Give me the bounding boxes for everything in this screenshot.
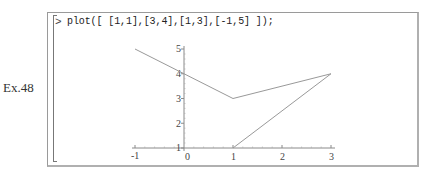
y-tick-label: 2 — [176, 118, 181, 129]
x-tick-label: 0 — [185, 151, 190, 162]
x-tick-label: 1 — [231, 151, 236, 162]
y-tick-label: 3 — [176, 93, 181, 104]
plot-output[interactable]: -1 0 1 2 3 1 2 3 4 5 — [0, 0, 426, 170]
x-tick-label: 2 — [280, 151, 285, 162]
plot-curve — [135, 49, 331, 148]
y-tick-label: 1 — [176, 142, 181, 153]
x-tick-label: 3 — [329, 151, 334, 162]
x-tick-labels: -1 0 1 2 3 — [131, 150, 334, 162]
y-tick-label: 5 — [176, 43, 181, 54]
x-tick-label: -1 — [131, 150, 139, 161]
y-tick-labels: 1 2 3 4 5 — [176, 43, 181, 153]
y-axis — [181, 46, 184, 151]
